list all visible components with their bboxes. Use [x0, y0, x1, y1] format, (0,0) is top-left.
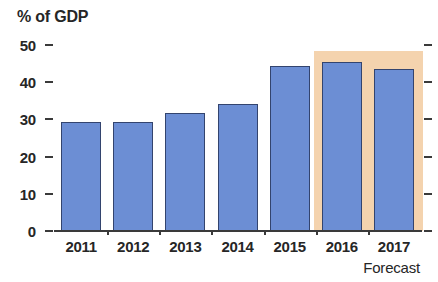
bar-2017 — [374, 69, 414, 231]
y-axis-tick-mark-right — [424, 44, 432, 46]
x-axis-tick-mark — [159, 231, 161, 235]
x-axis-tick-label: 2012 — [117, 238, 149, 255]
x-axis-tick-label: 2011 — [65, 238, 96, 255]
y-axis-tick-mark-left — [45, 230, 53, 232]
bar-2011 — [61, 122, 101, 231]
y-axis: 01020304050 — [0, 0, 55, 282]
y-axis-tick-label: 10 — [20, 185, 36, 202]
bar-2014 — [218, 104, 258, 231]
x-axis-tick-label: 2014 — [221, 238, 253, 255]
y-axis-tick-label: 40 — [20, 74, 36, 91]
x-axis-tick-label: 2016 — [326, 238, 358, 255]
y-axis-tick-label: 30 — [20, 111, 36, 128]
y-axis-tick-mark-right — [424, 193, 432, 195]
y-axis-tick-mark-right — [424, 230, 432, 232]
y-axis-tick-mark-right — [424, 118, 432, 120]
y-axis-tick-label: 50 — [20, 37, 36, 54]
x-axis-tick-mark — [316, 231, 318, 235]
y-axis-tick-mark-right — [424, 156, 432, 158]
y-axis-tick-label: 20 — [20, 148, 36, 165]
x-axis-tick-mark — [264, 231, 266, 235]
forecast-caption-label: Forecast — [363, 259, 420, 276]
bar-2013 — [165, 113, 205, 231]
y-axis-tick-mark-left — [45, 193, 53, 195]
x-axis-tick-mark — [211, 231, 213, 235]
x-axis-tick-mark — [368, 231, 370, 235]
plot-area — [55, 45, 420, 231]
x-axis-tick-label: 2017 — [378, 238, 410, 255]
bar-chart: % of GDP 01020304050 2011201220132014201… — [0, 0, 438, 282]
x-axis-baseline — [54, 230, 422, 232]
bar-2016 — [322, 62, 362, 231]
bars-layer — [55, 45, 420, 231]
y-axis-tick-mark-left — [45, 118, 53, 120]
y-axis-tick-mark-left — [45, 81, 53, 83]
bar-2012 — [113, 122, 153, 231]
x-axis-tick-label: 2013 — [169, 238, 201, 255]
bar-2015 — [270, 66, 310, 231]
x-axis-tick-label: 2015 — [274, 238, 306, 255]
y-axis-tick-label: 0 — [28, 223, 36, 240]
x-axis-tick-mark — [107, 231, 109, 235]
y-axis-tick-mark-right — [424, 81, 432, 83]
x-axis: 2011201220132014201520162017 — [55, 238, 420, 260]
y-axis-tick-mark-left — [45, 156, 53, 158]
y-axis-tick-mark-left — [45, 44, 53, 46]
